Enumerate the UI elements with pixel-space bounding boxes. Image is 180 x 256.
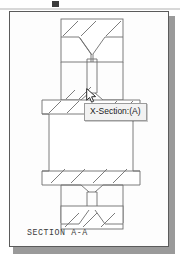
upper-shoulder-left <box>61 93 89 100</box>
xsection-tooltip: X-Section:(A) <box>84 103 147 121</box>
top-edge-marker <box>52 1 59 7</box>
tooltip-label: X-Section:(A) <box>90 106 141 116</box>
lower-shoulder-right <box>95 185 123 192</box>
section-geometry <box>42 19 140 229</box>
lower-shoulder-left <box>61 185 89 192</box>
cad-drawing-canvas[interactable] <box>9 11 169 247</box>
top-edge-artifact <box>0 8 180 10</box>
screenshot-root: X-Section:(A) SECTION A-A <box>0 0 180 256</box>
section-caption: SECTION A-A <box>27 228 88 238</box>
upper-shoulder-right <box>95 93 123 100</box>
upper-shoulder-hatch-b <box>66 90 75 99</box>
arrow-pointer-icon <box>86 88 97 103</box>
